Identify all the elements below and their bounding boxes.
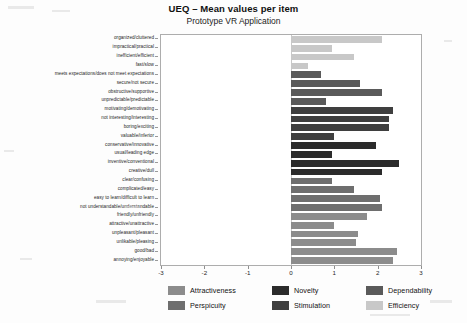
- bar-row: [161, 88, 421, 97]
- bar-row: [161, 79, 421, 88]
- plot-area: [161, 35, 421, 265]
- chart-subtitle: Prototype VR Application: [0, 15, 467, 27]
- y-axis-label: inventive/conventional: [108, 159, 154, 165]
- y-axis-label: usual/leading edge: [115, 150, 154, 156]
- legend-swatch: [272, 286, 289, 295]
- y-axis-tick: [155, 100, 158, 101]
- legend-item[interactable]: Efficiency: [366, 299, 419, 311]
- legend-label: Stimulation: [294, 301, 330, 310]
- bar-row: [161, 221, 421, 230]
- bar: [291, 45, 332, 52]
- legend-item[interactable]: Novelty: [272, 284, 318, 296]
- y-axis-tick: [155, 47, 158, 48]
- bar-row: [161, 212, 421, 221]
- bar: [291, 124, 389, 131]
- bar-row: [161, 123, 421, 132]
- y-axis-tick: [155, 127, 158, 128]
- x-axis-tick-label: -3: [158, 269, 164, 276]
- bar-row: [161, 238, 421, 247]
- bar-row: [161, 230, 421, 239]
- y-axis-labels: organized/clutteredimpractical/practical…: [0, 34, 158, 266]
- chart-root: UEQ – Mean values per item Prototype VR …: [0, 0, 467, 323]
- bar: [291, 89, 382, 96]
- y-axis-tick: [155, 136, 158, 137]
- bar: [291, 80, 360, 87]
- y-axis-tick: [155, 83, 158, 84]
- bar: [291, 169, 382, 176]
- bar-row: [161, 62, 421, 71]
- y-axis-label: impractical/practical: [113, 44, 154, 50]
- y-axis-label: not interesting/interesting: [101, 115, 154, 121]
- bar: [291, 178, 332, 185]
- y-axis-label: good/bad: [134, 248, 154, 254]
- bar: [291, 231, 358, 238]
- bar-row: [161, 44, 421, 53]
- scan-artifact: [126, 206, 140, 208]
- x-axis: -3-2-10123: [160, 266, 422, 282]
- x-axis-tick-label: -2: [202, 269, 208, 276]
- bar-row: [161, 150, 421, 159]
- bar-row: [161, 132, 421, 141]
- y-axis-label: meets expectations/does not meet expecta…: [55, 71, 154, 77]
- legend-swatch: [168, 286, 185, 295]
- legend-swatch: [168, 301, 185, 310]
- page-title: UEQ – Mean values per item: [0, 3, 467, 15]
- bar-row: [161, 115, 421, 124]
- y-axis-tick: [155, 198, 158, 199]
- y-axis-tick: [155, 251, 158, 252]
- legend-label: Novelty: [294, 286, 318, 295]
- y-axis-tick: [155, 215, 158, 216]
- bar-row: [161, 106, 421, 115]
- bar: [291, 98, 326, 105]
- legend-item[interactable]: Perspicuity: [168, 299, 226, 311]
- bar: [291, 257, 393, 264]
- y-axis-label: motivating/demotivating: [105, 106, 154, 112]
- y-axis-tick: [155, 118, 158, 119]
- y-axis-tick: [155, 153, 158, 154]
- y-axis-label: easy to learn/difficult to learn: [94, 195, 154, 201]
- y-axis-label: boring/exciting: [124, 124, 154, 130]
- legend-item[interactable]: Dependability: [366, 284, 432, 296]
- scan-artifact: [8, 6, 34, 9]
- scan-artifact: [370, 314, 410, 316]
- bar-row: [161, 203, 421, 212]
- title-block: UEQ – Mean values per item Prototype VR …: [0, 3, 467, 27]
- bar-row: [161, 70, 421, 79]
- y-axis-label: attractive/unattractive: [109, 221, 154, 227]
- y-axis-label: creative/dull: [129, 168, 154, 174]
- legend-swatch: [272, 301, 289, 310]
- bar-row: [161, 168, 421, 177]
- y-axis-tick: [155, 74, 158, 75]
- bar: [291, 54, 354, 61]
- legend-item[interactable]: Stimulation: [272, 299, 330, 311]
- legend-label: Efficiency: [388, 301, 419, 310]
- bar: [291, 133, 334, 140]
- y-axis-label: unpredictable/predictable: [101, 97, 154, 103]
- scan-artifact: [444, 40, 452, 42]
- x-axis-tick-label: 0: [289, 269, 292, 276]
- bar: [291, 239, 356, 246]
- bar: [291, 107, 393, 114]
- bar: [291, 36, 382, 43]
- plot-frame: [160, 34, 422, 266]
- y-axis-label: inefficient/efficient: [117, 53, 154, 59]
- y-axis-label: unlikable/pleasing: [117, 239, 154, 245]
- y-axis-tick: [155, 207, 158, 208]
- y-axis-label: conservative/innovative: [105, 142, 154, 148]
- bar-row: [161, 97, 421, 106]
- bar: [291, 160, 399, 167]
- y-axis-tick: [155, 56, 158, 57]
- legend-item[interactable]: Attractiveness: [168, 284, 236, 296]
- legend-swatch: [366, 286, 383, 295]
- y-axis-tick: [155, 145, 158, 146]
- bar-row: [161, 247, 421, 256]
- bar: [291, 213, 367, 220]
- y-axis-label: not understandable/understandable: [80, 204, 154, 210]
- y-axis-label: fast/slow: [136, 62, 154, 68]
- y-axis-tick: [155, 189, 158, 190]
- bar: [291, 71, 321, 78]
- scan-artifact: [20, 258, 32, 260]
- bar-row: [161, 159, 421, 168]
- y-axis-label: valuable/inferior: [121, 133, 154, 139]
- bar-row: [161, 185, 421, 194]
